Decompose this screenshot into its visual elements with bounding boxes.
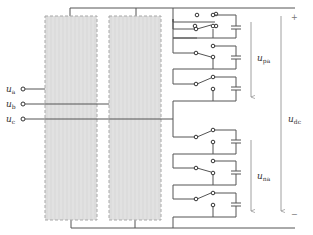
svg-text:uc: uc — [6, 114, 16, 125]
circuit-diagram: ua ub uc — [0, 0, 313, 235]
upper-arm-voltage-label: upa — [257, 53, 271, 65]
input-ua: ua — [6, 84, 45, 95]
dc-voltage-label: udc — [288, 114, 302, 125]
plus-sign: + — [291, 13, 298, 22]
minus-sign: − — [291, 210, 298, 219]
converter-block-1 — [45, 16, 97, 220]
top-bus — [70, 8, 295, 19]
terminal-ua-icon — [21, 87, 25, 91]
svg-text:ub: ub — [6, 99, 16, 110]
terminal-ub-icon — [21, 102, 25, 106]
svg-text:ua: ua — [6, 84, 16, 95]
converter-block-2 — [109, 16, 161, 220]
terminal-uc-icon — [21, 117, 25, 121]
bottom-bus — [71, 217, 295, 228]
lower-arm-voltage-label: una — [257, 171, 271, 182]
